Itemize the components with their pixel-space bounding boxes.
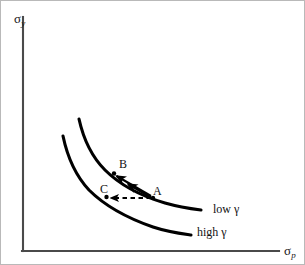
arrow-a-to-b xyxy=(117,176,152,196)
x-axis-label-subscript: p xyxy=(291,250,296,260)
plot-canvas xyxy=(1,1,305,265)
x-axis-label: σp xyxy=(284,244,296,260)
point-marker-b xyxy=(112,171,116,175)
point-label-b: B xyxy=(119,158,127,170)
x-axis-label-symbol: σ xyxy=(284,243,291,258)
y-axis-label: σy xyxy=(14,12,25,28)
figure-container: σy σp A B C low γ high γ xyxy=(0,0,305,265)
y-axis-label-subscript: y xyxy=(21,18,25,28)
curve-label-high-gamma: high γ xyxy=(197,226,227,238)
y-axis-label-symbol: σ xyxy=(14,11,21,26)
axes-group xyxy=(22,17,279,251)
point-label-a: A xyxy=(153,185,162,197)
point-label-c: C xyxy=(100,183,108,195)
curve-label-low-gamma: low γ xyxy=(213,203,239,215)
